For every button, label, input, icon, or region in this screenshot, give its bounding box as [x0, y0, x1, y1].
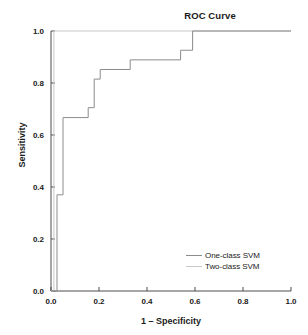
legend-label-one-class: One-class SVM — [205, 251, 260, 260]
legend-line-icon-two-class — [186, 266, 202, 267]
plot-canvas — [0, 0, 308, 335]
x-axis-ticks — [51, 287, 291, 291]
legend-item-two-class-svm: Two-class SVM — [186, 261, 260, 272]
y-axis-ticks — [51, 31, 55, 291]
roc-curve-figure: ROC Curve Sensitivity 1 – Specificity 0.… — [0, 0, 308, 335]
legend-label-two-class: Two-class SVM — [205, 262, 259, 271]
legend-line-icon-one-class — [186, 255, 202, 256]
legend-item-one-class-svm: One-class SVM — [186, 250, 260, 261]
legend: One-class SVM Two-class SVM — [186, 250, 260, 272]
